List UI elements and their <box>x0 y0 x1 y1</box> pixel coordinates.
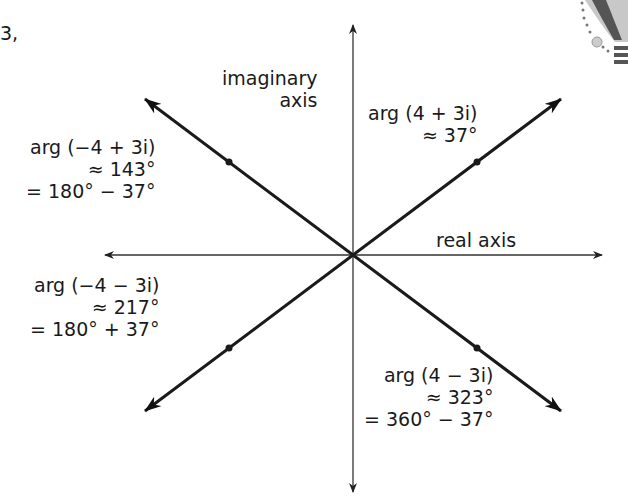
arg-q2-line1: arg (−4 + 3i) <box>26 136 155 158</box>
arg-q1-line2: ≈ 37° <box>368 124 478 146</box>
arg-q3-line1: arg (−4 − 3i) <box>30 274 159 296</box>
vector-ray-q2 <box>145 99 353 255</box>
point-q3 <box>226 345 233 352</box>
arg-q2-line2: ≈ 143° <box>26 158 155 180</box>
vector-ray-q3 <box>145 255 353 411</box>
arg-q2-line3: = 180° − 37° <box>26 180 155 202</box>
point-q2 <box>226 159 233 166</box>
imaginary-axis-label-line1: imaginary <box>222 67 318 89</box>
arg-q4-line3: = 360° − 37° <box>364 408 493 430</box>
arg-q4-line2: ≈ 323° <box>364 386 493 408</box>
point-q1 <box>474 159 481 166</box>
arg-label-q4: arg (4 − 3i) ≈ 323° = 360° − 37° <box>364 364 493 430</box>
arg-q3-line2: ≈ 217° <box>30 296 159 318</box>
point-q4 <box>474 345 481 352</box>
text-fragment: 3, <box>0 22 18 44</box>
lightbulb-icon <box>581 0 628 64</box>
arg-label-q1: arg (4 + 3i) ≈ 37° <box>368 102 478 146</box>
arg-label-q2: arg (−4 + 3i) ≈ 143° = 180° − 37° <box>26 136 155 202</box>
arg-q4-line1: arg (4 − 3i) <box>364 364 493 386</box>
arg-q1-line1: arg (4 + 3i) <box>368 102 478 124</box>
imaginary-axis-label: imaginary axis <box>222 67 318 111</box>
imaginary-axis-label-line2: axis <box>222 89 318 111</box>
real-axis-label: real axis <box>436 229 516 251</box>
arg-label-q3: arg (−4 − 3i) ≈ 217° = 180° + 37° <box>30 274 159 340</box>
arg-q3-line3: = 180° + 37° <box>30 318 159 340</box>
